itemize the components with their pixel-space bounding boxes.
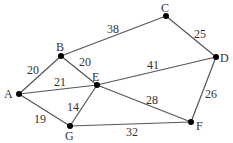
node-label: F <box>196 119 203 133</box>
edge-weight-label: 19 <box>34 112 46 126</box>
node-label: D <box>220 51 229 65</box>
edge-weight-label: 32 <box>126 125 138 139</box>
node-label: E <box>92 70 99 84</box>
edge-weight-label: 26 <box>205 87 217 101</box>
edge-weight-label: 25 <box>194 27 206 41</box>
node-label: A <box>4 87 13 101</box>
node-F <box>188 119 194 125</box>
node-label: C <box>161 1 169 15</box>
node-A <box>16 91 22 97</box>
edge-C-D <box>166 16 216 57</box>
edge-weight-label: 14 <box>67 100 79 114</box>
edge-weight-label: 41 <box>147 58 159 72</box>
edge-weight-label: 38 <box>107 22 119 36</box>
node-label: G <box>65 129 74 143</box>
edge-weight-label: 20 <box>27 63 39 77</box>
edge-weight-label: 21 <box>54 75 66 89</box>
node-D <box>213 54 219 60</box>
node-label: B <box>56 40 64 54</box>
edge-weight-label: 28 <box>146 93 158 107</box>
edge-E-F <box>97 85 191 122</box>
weighted-graph: 2038202125412819143226 ABCDEFG <box>0 0 233 143</box>
edge-weight-label: 20 <box>79 55 91 69</box>
